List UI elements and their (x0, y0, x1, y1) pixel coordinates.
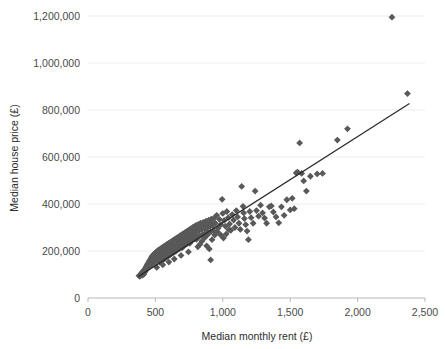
data-point (245, 236, 252, 243)
y-axis-title: Median house price (£) (8, 104, 20, 211)
y-tick-label: 800,000 (42, 104, 80, 116)
data-point (289, 195, 296, 202)
scatter-chart: 0200,000400,000600,000800,0001,000,0001,… (0, 0, 445, 349)
data-point (252, 188, 259, 195)
data-point (248, 214, 255, 221)
y-axis-tick-labels: 0200,000400,000600,000800,0001,000,0001,… (33, 10, 80, 304)
y-tick-label: 1,200,000 (33, 10, 80, 22)
data-point (314, 171, 321, 178)
x-tick-label: 1,500 (277, 306, 303, 318)
data-point (236, 220, 243, 227)
x-axis-ticks (88, 298, 425, 302)
data-point (185, 249, 192, 256)
data-point (242, 221, 249, 228)
data-point (307, 173, 314, 180)
data-point (250, 220, 257, 227)
trend-line-segment (139, 103, 410, 276)
data-point (296, 140, 303, 147)
x-axis-tick-labels: 05001,0001,5002,0002,500 (85, 306, 438, 318)
x-axis-title: Median monthly rent (£) (202, 330, 313, 342)
data-point (253, 207, 260, 214)
data-point (219, 196, 226, 203)
data-point (334, 137, 341, 144)
trend-line (139, 103, 410, 276)
x-tick-label: 2,500 (412, 306, 438, 318)
data-point-series (136, 14, 411, 280)
data-point (300, 178, 307, 185)
data-point (344, 125, 351, 132)
y-tick-label: 400,000 (42, 198, 80, 210)
data-point (389, 14, 396, 21)
plot-area: 0200,000400,000600,000800,0001,000,0001,… (0, 0, 445, 349)
x-tick-label: 0 (85, 306, 91, 318)
data-point (238, 183, 245, 190)
x-tick-label: 2,000 (344, 306, 370, 318)
data-point (281, 212, 288, 219)
data-point (275, 219, 282, 226)
data-point (404, 90, 411, 97)
data-point (207, 257, 214, 264)
data-point (257, 202, 264, 209)
data-point (237, 226, 244, 233)
data-point (244, 228, 251, 235)
x-tick-label: 500 (147, 306, 165, 318)
y-tick-label: 0 (74, 292, 80, 304)
data-point (283, 196, 290, 203)
y-tick-label: 200,000 (42, 245, 80, 257)
y-tick-label: 600,000 (42, 151, 80, 163)
data-point (246, 208, 253, 215)
x-tick-label: 1,000 (210, 306, 236, 318)
data-point (241, 215, 248, 222)
data-point (303, 188, 310, 195)
y-tick-label: 1,000,000 (33, 57, 80, 69)
data-point (319, 170, 326, 177)
data-point (178, 252, 185, 259)
